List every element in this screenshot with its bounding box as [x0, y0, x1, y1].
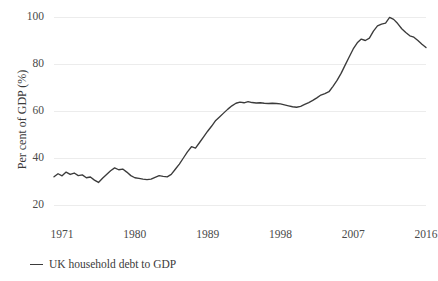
gridline-20 — [54, 205, 426, 206]
chart-legend: UK household debt to GDP — [30, 258, 176, 270]
series-line — [54, 17, 426, 182]
legend-label: UK household debt to GDP — [49, 258, 176, 270]
x-tick-1989: 1989 — [196, 228, 219, 240]
x-axis-tick-labels: 197119801989199820072016 — [0, 228, 435, 244]
plot-area — [54, 17, 426, 205]
x-tick-2016: 2016 — [415, 228, 438, 240]
legend-line-swatch-icon — [30, 264, 43, 265]
series-uk-household-debt-to-gdp — [54, 17, 426, 205]
x-tick-1971: 1971 — [51, 228, 74, 240]
x-tick-1980: 1980 — [123, 228, 146, 240]
y-tick-80: 80 — [33, 58, 45, 70]
y-tick-20: 20 — [33, 199, 45, 211]
y-tick-100: 100 — [27, 11, 44, 23]
x-tick-1998: 1998 — [269, 228, 292, 240]
y-tick-60: 60 — [33, 105, 45, 117]
x-tick-2007: 2007 — [342, 228, 365, 240]
y-tick-40: 40 — [33, 152, 45, 164]
